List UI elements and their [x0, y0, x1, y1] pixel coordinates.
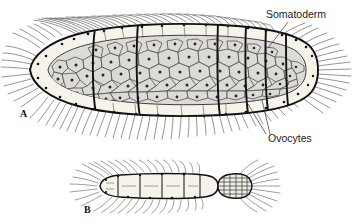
illustration-figure: A	[0, 0, 361, 224]
panel-a-label: A	[20, 108, 28, 119]
somatoderm-label: Somatoderm	[266, 8, 326, 20]
panel-b-label: B	[84, 204, 91, 215]
figure-canvas: A	[0, 0, 361, 224]
ovocytes-label: Ovocytes	[268, 132, 312, 144]
